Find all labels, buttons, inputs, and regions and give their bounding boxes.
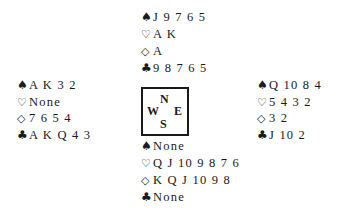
south-diamonds-cards: K Q J 10 9 8 [153, 173, 231, 187]
west-clubs-cards: A K Q 4 3 [29, 128, 91, 142]
west-hand: ♠A K 3 2 ♡None ◇7 6 5 4 ♣A K Q 4 3 [17, 77, 91, 143]
south-spades-cards: None [153, 139, 185, 153]
south-hearts-cards: Q J 10 9 8 7 6 [153, 156, 240, 170]
west-diamonds: ◇7 6 5 4 [17, 110, 91, 127]
east-spades-cards: Q 10 8 4 [269, 78, 322, 92]
west-clubs: ♣A K Q 4 3 [17, 127, 91, 144]
east-clubs-cards: J 10 2 [269, 128, 306, 142]
north-clubs: ♣9 8 7 6 5 [141, 60, 208, 77]
east-clubs: ♣J 10 2 [257, 127, 322, 144]
east-hand: ♠Q 10 8 4 ♡5 4 3 2 ◇3 2 ♣J 10 2 [257, 77, 322, 143]
compass-south-label: S [160, 117, 167, 132]
north-diamonds-cards: A [153, 44, 163, 58]
spade-icon: ♠ [17, 77, 29, 94]
east-hearts-cards: 5 4 3 2 [269, 95, 312, 109]
diamond-icon: ◇ [17, 111, 29, 128]
south-hearts: ♡Q J 10 9 8 7 6 [141, 155, 240, 172]
south-diamonds: ◇K Q J 10 9 8 [141, 172, 240, 189]
south-hand: ♠None ♡Q J 10 9 8 7 6 ◇K Q J 10 9 8 ♣Non… [141, 138, 240, 206]
west-hearts-cards: None [29, 95, 61, 109]
east-diamonds: ◇3 2 [257, 110, 322, 127]
north-hearts-cards: A K [153, 27, 177, 41]
diamond-icon: ◇ [141, 172, 153, 189]
south-clubs-cards: None [153, 190, 185, 204]
compass-north-label: N [160, 92, 169, 107]
west-hearts: ♡None [17, 94, 91, 111]
north-diamonds: ◇A [141, 43, 208, 60]
spade-icon: ♠ [141, 9, 153, 26]
compass-box: N W E S [141, 87, 189, 136]
compass-west-label: W [147, 104, 159, 119]
north-clubs-cards: 9 8 7 6 5 [153, 61, 208, 75]
heart-icon: ♡ [141, 155, 153, 172]
east-hearts: ♡5 4 3 2 [257, 94, 322, 111]
heart-icon: ♡ [17, 95, 29, 112]
diamond-icon: ◇ [141, 43, 153, 60]
south-spades: ♠None [141, 138, 240, 155]
club-icon: ♣ [17, 127, 29, 144]
heart-icon: ♡ [257, 95, 269, 112]
compass-east-label: E [174, 104, 182, 119]
heart-icon: ♡ [141, 26, 153, 43]
west-spades: ♠A K 3 2 [17, 77, 91, 94]
club-icon: ♣ [141, 60, 153, 77]
west-spades-cards: A K 3 2 [29, 78, 77, 92]
north-spades: ♠J 9 7 6 5 [141, 9, 208, 26]
west-diamonds-cards: 7 6 5 4 [29, 111, 72, 125]
north-hand: ♠J 9 7 6 5 ♡A K ◇A ♣9 8 7 6 5 [141, 9, 208, 77]
club-icon: ♣ [141, 189, 153, 206]
east-diamonds-cards: 3 2 [269, 111, 288, 125]
club-icon: ♣ [257, 127, 269, 144]
east-spades: ♠Q 10 8 4 [257, 77, 322, 94]
spade-icon: ♠ [141, 138, 153, 155]
south-clubs: ♣None [141, 189, 240, 206]
spade-icon: ♠ [257, 77, 269, 94]
north-spades-cards: J 9 7 6 5 [153, 10, 206, 24]
north-hearts: ♡A K [141, 26, 208, 43]
diamond-icon: ◇ [257, 111, 269, 128]
